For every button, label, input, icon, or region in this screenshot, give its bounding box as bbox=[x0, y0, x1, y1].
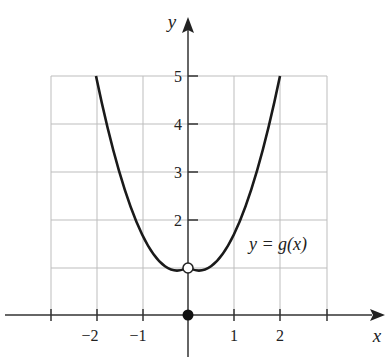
x-tick-label: 1 bbox=[230, 327, 238, 344]
curve-label: y = g(x) bbox=[247, 234, 307, 255]
open-point bbox=[183, 263, 193, 273]
y-tick-label: 4 bbox=[174, 116, 182, 133]
y-axis bbox=[188, 28, 198, 357]
filled-point bbox=[183, 310, 194, 321]
x-axis-label: x bbox=[372, 325, 382, 346]
y-tick-label: 3 bbox=[174, 164, 182, 181]
x-tick-label: −2 bbox=[81, 327, 98, 344]
x-tick-label: 2 bbox=[276, 327, 284, 344]
y-axis-label: y bbox=[166, 11, 177, 32]
x-tick-label: −1 bbox=[129, 327, 146, 344]
y-tick-label: 2 bbox=[174, 212, 182, 229]
x-axis-arrow-icon bbox=[370, 309, 385, 321]
function-graph: −2 −1 1 2 5 4 3 2 y x y = g(x) bbox=[0, 0, 385, 357]
y-tick-label: 5 bbox=[174, 68, 182, 85]
grid bbox=[51, 76, 327, 315]
